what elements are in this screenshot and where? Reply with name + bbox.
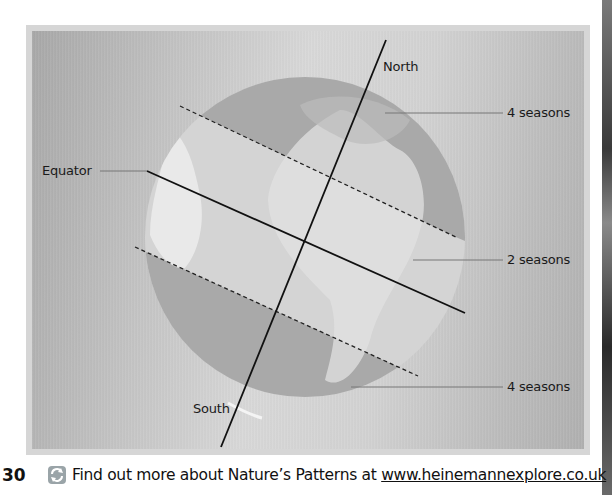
- footer-text-prefix: Find out more about Nature’s Patterns at: [72, 466, 381, 484]
- south-zone-label: 4 seasons: [507, 379, 570, 394]
- page-number: 30: [2, 465, 26, 485]
- equator-label: Equator: [42, 163, 92, 178]
- page-footer: 30 Find out more about Nature’s Patterns…: [0, 463, 602, 491]
- globe-diagram: [0, 0, 612, 495]
- north-label: North: [383, 59, 418, 74]
- middle-zone-label: 2 seasons: [507, 252, 570, 267]
- north-zone-label: 4 seasons: [507, 105, 570, 120]
- explore-refresh-icon: [47, 465, 67, 485]
- south-label: South: [193, 401, 230, 416]
- footer-text: Find out more about Nature’s Patterns at…: [72, 466, 606, 484]
- website-link[interactable]: www.heinemannexplore.co.uk: [381, 466, 606, 484]
- adjacent-page-photo-edge: [602, 0, 612, 495]
